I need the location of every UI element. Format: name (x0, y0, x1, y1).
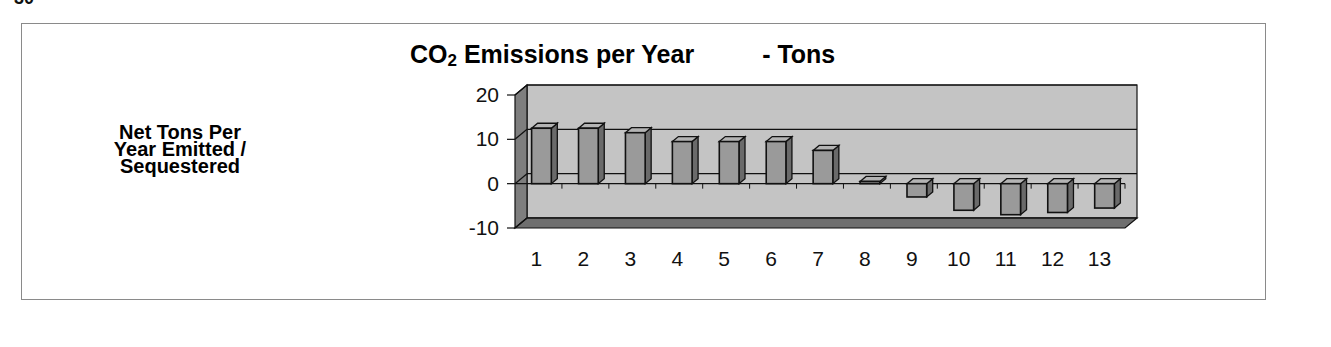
x-tick-label: 5 (718, 247, 730, 270)
bar-11 (1001, 184, 1021, 215)
bar-1 (532, 128, 552, 183)
bar-side (1021, 179, 1027, 215)
bar-13 (1095, 184, 1115, 208)
bar-side (551, 123, 557, 183)
side-wall (515, 85, 527, 228)
bar-12 (1048, 184, 1068, 213)
bar-8 (860, 181, 880, 183)
x-tick-label: 2 (578, 247, 590, 270)
bar-2 (579, 128, 599, 183)
x-tick-label: 13 (1088, 247, 1111, 270)
bar-10 (954, 184, 974, 211)
bar-5 (719, 142, 739, 184)
x-tick-label: 9 (906, 247, 918, 270)
bar-3 (625, 133, 645, 184)
y-tick-label: 10 (476, 127, 499, 150)
x-tick-label: 8 (859, 247, 871, 270)
y-tick-label: 20 (476, 83, 499, 106)
bar-4 (672, 142, 692, 184)
x-tick-label: 12 (1041, 247, 1064, 270)
bar-chart-plot: 20100-1012345678910111213 (0, 0, 1331, 347)
y-tick-label: -10 (469, 216, 499, 239)
x-tick-label: 10 (947, 247, 970, 270)
x-tick-label: 1 (531, 247, 543, 270)
x-tick-label: 6 (765, 247, 777, 270)
bar-side (833, 145, 839, 183)
bar-side (645, 128, 651, 184)
bar-side (598, 123, 604, 183)
bar-6 (766, 142, 786, 184)
bar-side (739, 137, 745, 184)
x-tick-label: 4 (671, 247, 683, 270)
bar-side (786, 137, 792, 184)
floor (515, 218, 1137, 228)
bar-9 (907, 184, 927, 197)
plot-area: 20100-1012345678910111213 (469, 83, 1137, 270)
bar-side (692, 137, 698, 184)
bar-7 (813, 150, 833, 183)
y-tick-label: 0 (487, 172, 499, 195)
x-tick-label: 7 (812, 247, 824, 270)
x-tick-label: 3 (624, 247, 636, 270)
x-tick-label: 11 (995, 247, 1017, 270)
